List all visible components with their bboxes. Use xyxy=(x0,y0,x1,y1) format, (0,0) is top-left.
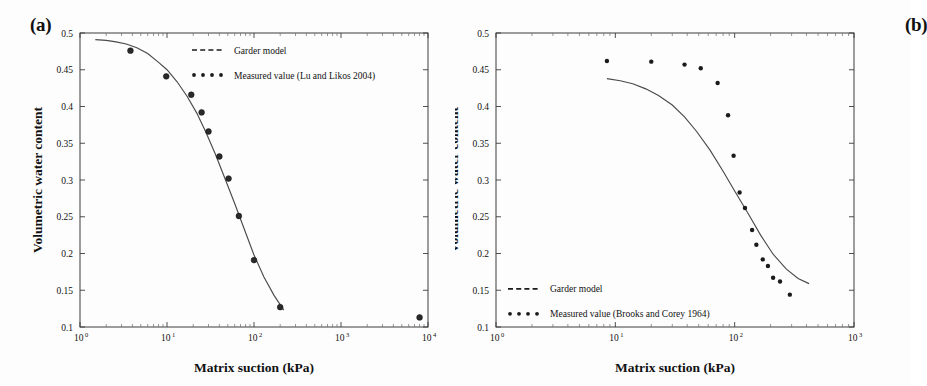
y-tick-label: 0.1 xyxy=(61,323,73,333)
y-tick-label: 0.45 xyxy=(56,65,73,75)
x-tick-label: 102 xyxy=(729,331,743,343)
y-axis-title: Volumetric water content xyxy=(455,106,461,253)
panel-a: (a) 1001011021031040.10.150.20.250.30.35… xyxy=(0,0,455,386)
legend-dot-swatch xyxy=(508,312,512,316)
svg-text:2: 2 xyxy=(259,331,262,338)
measured-data-point xyxy=(216,154,222,160)
legend-dot-swatch xyxy=(210,73,214,77)
legend-dot-swatch xyxy=(219,73,223,77)
measured-data-point xyxy=(682,62,686,66)
legend-entry: Garder model xyxy=(192,46,287,56)
measured-data-point xyxy=(605,59,609,63)
legend-label: Garder model xyxy=(550,284,603,294)
panel-a-plot: 1001011021031040.10.150.20.250.30.350.40… xyxy=(0,0,455,386)
x-axis-title: Matrix suction (kPa) xyxy=(615,360,735,375)
y-tick-label: 0.1 xyxy=(477,323,489,333)
axes-frame xyxy=(496,33,854,327)
measured-data-point xyxy=(199,109,205,115)
y-tick-label: 0.2 xyxy=(477,249,489,259)
svg-text:10: 10 xyxy=(335,333,345,343)
measured-data-point xyxy=(277,304,283,310)
measured-data-point xyxy=(750,228,754,232)
y-tick-label: 0.35 xyxy=(56,139,73,149)
measured-data-point xyxy=(188,92,194,98)
x-tick-label: 100 xyxy=(74,331,88,343)
legend-dot-swatch xyxy=(526,312,530,316)
measured-data-point xyxy=(251,257,257,263)
measured-data-point xyxy=(788,292,792,296)
y-tick-label: 0.45 xyxy=(472,65,489,75)
x-axis-title: Matrix suction (kPa) xyxy=(194,360,314,375)
legend-entry: Measured value (Lu and Likos 2004) xyxy=(192,71,375,82)
x-tick-label: 101 xyxy=(161,331,175,343)
panel-b: (b) 1001011021030.10.150.20.250.30.350.4… xyxy=(455,0,910,386)
svg-text:3: 3 xyxy=(859,331,862,338)
svg-text:1: 1 xyxy=(620,331,623,338)
y-tick-label: 0.3 xyxy=(61,176,73,186)
legend-label: Measured value (Lu and Likos 2004) xyxy=(234,71,375,82)
y-tick-label: 0.4 xyxy=(61,102,73,112)
measured-data-point xyxy=(226,176,232,182)
svg-text:10: 10 xyxy=(74,333,84,343)
svg-text:2: 2 xyxy=(740,331,743,338)
measured-data-point xyxy=(206,129,212,135)
svg-text:10: 10 xyxy=(161,333,171,343)
x-tick-label: 102 xyxy=(248,331,262,343)
measured-data-point xyxy=(699,66,703,70)
svg-text:3: 3 xyxy=(346,331,349,338)
panel-b-plot: 1001011021030.10.150.20.250.30.350.40.45… xyxy=(455,0,910,386)
svg-text:0: 0 xyxy=(501,331,504,338)
y-tick-label: 0.3 xyxy=(477,176,489,186)
legend-entry: Garder model xyxy=(508,284,603,294)
svg-text:10: 10 xyxy=(490,333,500,343)
legend-entry: Measured value (Brooks and Corey 1964) xyxy=(508,309,710,320)
legend-dot-swatch xyxy=(201,73,205,77)
y-tick-label: 0.25 xyxy=(472,212,489,222)
y-tick-label: 0.25 xyxy=(56,212,73,222)
measured-data-point xyxy=(731,154,735,158)
y-axis-title: Volumetric water content xyxy=(30,106,45,253)
measured-data-point xyxy=(715,81,719,85)
x-tick-label: 104 xyxy=(422,331,437,343)
measured-data-point xyxy=(163,73,169,79)
x-tick-label: 103 xyxy=(848,331,862,343)
measured-data-point xyxy=(778,279,782,283)
measured-data-point xyxy=(236,213,242,219)
svg-text:4: 4 xyxy=(433,331,437,338)
svg-text:10: 10 xyxy=(422,333,432,343)
svg-text:10: 10 xyxy=(729,333,739,343)
x-tick-label: 101 xyxy=(609,331,623,343)
legend-label: Garder model xyxy=(234,46,287,56)
y-tick-label: 0.35 xyxy=(472,139,489,149)
svg-text:10: 10 xyxy=(848,333,858,343)
x-tick-label: 100 xyxy=(490,331,504,343)
legend-dot-swatch xyxy=(192,73,196,77)
measured-data-point xyxy=(754,242,758,246)
measured-data-point xyxy=(771,276,775,280)
y-tick-label: 0.2 xyxy=(61,249,73,259)
measured-data-point xyxy=(128,48,134,54)
svg-text:0: 0 xyxy=(85,331,88,338)
svg-text:1: 1 xyxy=(172,331,175,338)
svg-text:10: 10 xyxy=(609,333,619,343)
y-tick-label: 0.15 xyxy=(472,286,489,296)
garder-model-curve xyxy=(607,79,809,284)
measured-data-point xyxy=(737,190,741,194)
y-tick-label: 0.5 xyxy=(477,29,489,39)
legend-dot-swatch xyxy=(535,312,539,316)
measured-data-point xyxy=(649,59,653,63)
x-tick-label: 103 xyxy=(335,331,349,343)
measured-data-point xyxy=(726,113,730,117)
measured-data-point xyxy=(761,257,765,261)
measured-data-point xyxy=(417,315,423,321)
y-tick-label: 0.15 xyxy=(56,286,73,296)
measured-data-point xyxy=(766,264,770,268)
legend-dot-swatch xyxy=(517,312,521,316)
y-tick-label: 0.5 xyxy=(61,29,73,39)
measured-data-point xyxy=(743,206,747,210)
y-tick-label: 0.4 xyxy=(477,102,489,112)
legend-label: Measured value (Brooks and Corey 1964) xyxy=(550,309,710,320)
svg-text:10: 10 xyxy=(248,333,258,343)
